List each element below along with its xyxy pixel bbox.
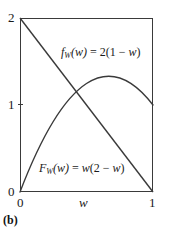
pdf-curve-label: fW(w) = 2(1 − w) [61,46,141,60]
pdf-label-subscript: W [64,51,71,60]
pdf-label-close: ) [137,45,141,59]
cdf-label-arg: (w) [53,161,69,175]
y-tick-label-0: 0 [8,185,15,198]
cdf-label-mid: (2 − [90,161,113,175]
y-tick-mark-1 [18,104,23,105]
cdf-label-close: ) [121,161,125,175]
cdf-label-subscript: W [46,167,53,176]
cdf-label-var2: w [113,161,121,175]
figure-caption: (b) [3,214,18,226]
x-tick-label-0: 0 [17,196,24,209]
cdf-label-eq: = [69,161,82,175]
y-tick-label-2: 2 [8,11,15,24]
cdf-label-var: w [82,161,90,175]
y-tick-label-1: 1 [8,98,15,111]
pdf-label-arg: (w) [71,45,87,59]
pdf-label-var: w [129,45,137,59]
x-tick-label-1: 1 [149,196,156,209]
pdf-label-eq: = 2(1 − [87,45,129,59]
x-axis-label: w [79,196,88,209]
figure-panel-b: 2 1 0 0 1 w fW(w) = 2(1 − w) FW(w) = w(2… [0,0,169,236]
cdf-curve-label: FW(w) = w(2 − w) [39,162,125,176]
